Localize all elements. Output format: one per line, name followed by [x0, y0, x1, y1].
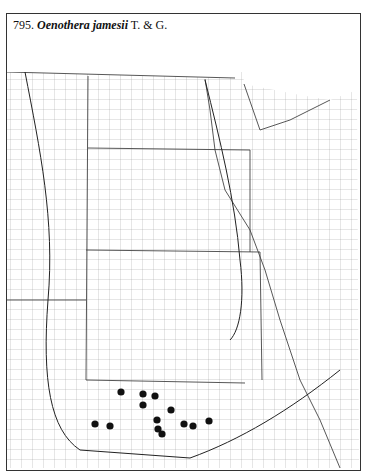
range-map: [0, 0, 372, 474]
record-dot: [106, 422, 113, 429]
record-dot: [167, 406, 174, 413]
record-dot: [139, 401, 146, 408]
record-dot: [139, 390, 146, 397]
record-dot: [180, 420, 187, 427]
record-dot: [91, 420, 98, 427]
record-dot: [151, 392, 158, 399]
map-land: [7, 68, 359, 468]
record-dot: [117, 388, 124, 395]
record-dot: [153, 416, 160, 423]
record-dot: [189, 422, 196, 429]
record-dot: [205, 417, 212, 424]
record-dot: [158, 430, 165, 437]
